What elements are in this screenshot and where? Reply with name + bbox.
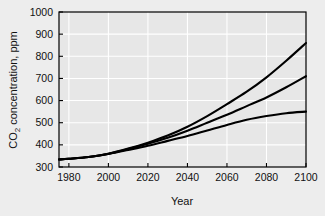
- y-tick-label: 700: [35, 72, 53, 84]
- x-axis-title: Year: [171, 195, 194, 207]
- x-tick-label: 2100: [294, 171, 318, 183]
- y-tick-label: 500: [35, 116, 53, 128]
- chart-figure: 3004005006007008009001000 19802000202020…: [0, 0, 325, 216]
- y-tick-label: 1000: [30, 6, 54, 18]
- y-axis-title-rest: concentration, ppm: [7, 31, 19, 128]
- y-tick-label: 900: [35, 28, 53, 40]
- x-tick-label: 2060: [215, 171, 239, 183]
- y-tick-label: 300: [35, 161, 53, 173]
- y-axis-title-main: CO: [7, 132, 19, 149]
- x-tick-label: 2080: [255, 171, 279, 183]
- co2-concentration-line-chart: 3004005006007008009001000 19802000202020…: [0, 0, 325, 216]
- x-tick-label: 2040: [176, 171, 200, 183]
- x-tick-label: 1980: [57, 171, 81, 183]
- y-tick-label: 400: [35, 138, 53, 150]
- x-tick-label: 2020: [136, 171, 160, 183]
- y-tick-label: 800: [35, 50, 53, 62]
- x-tick-label: 2000: [97, 171, 121, 183]
- y-tick-label: 600: [35, 94, 53, 106]
- plot-area-background: [59, 12, 306, 167]
